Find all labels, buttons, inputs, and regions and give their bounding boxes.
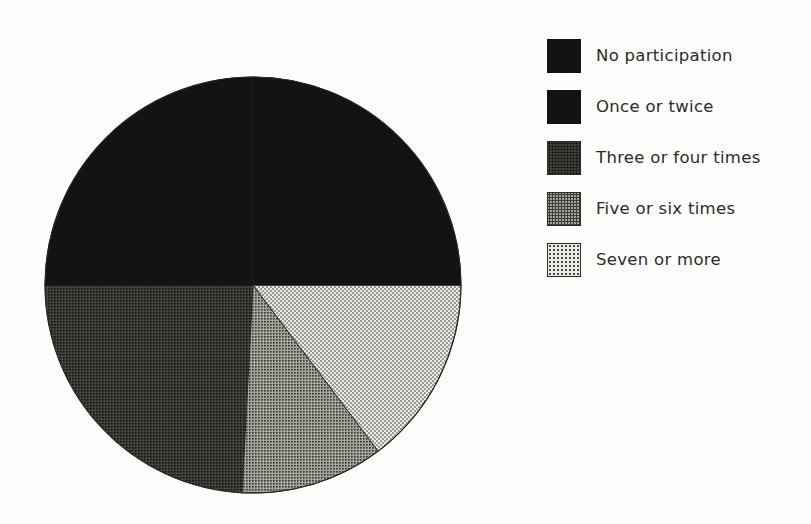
legend-item-label: Five or six times (596, 199, 735, 218)
legend-swatch-icon (547, 39, 581, 73)
legend-swatch-icon (547, 192, 581, 226)
legend-item-no-participation[interactable]: No participation (547, 30, 802, 81)
legend-item-three-or-four-times[interactable]: Three or four times (547, 132, 802, 183)
pie-chart (0, 0, 520, 524)
legend-item-once-or-twice[interactable]: Once or twice (547, 81, 802, 132)
legend-item-label: Seven or more (596, 250, 721, 269)
pie-slice-no-participation[interactable] (45, 77, 253, 285)
legend-item-five-or-six-times[interactable]: Five or six times (547, 183, 802, 234)
legend-item-label: No participation (596, 46, 733, 65)
chart-legend: No participation Once or twice Three or … (547, 30, 802, 285)
legend-item-label: Once or twice (596, 97, 714, 116)
legend-swatch-icon (547, 243, 581, 277)
legend-item-label: Three or four times (596, 148, 761, 167)
legend-swatch-icon (547, 90, 581, 124)
pie-chart-area (0, 0, 520, 524)
legend-item-seven-or-more[interactable]: Seven or more (547, 234, 802, 285)
legend-swatch-icon (547, 141, 581, 175)
pie-slice-three-or-four-times[interactable] (45, 285, 253, 493)
pie-slice-once-or-twice[interactable] (253, 77, 461, 285)
